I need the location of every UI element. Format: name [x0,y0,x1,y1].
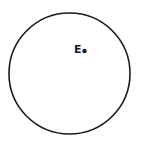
point-e-label: E [74,44,82,56]
circle-diagram [0,0,142,141]
point-e-dot [82,49,86,53]
circle-outline [9,13,130,134]
